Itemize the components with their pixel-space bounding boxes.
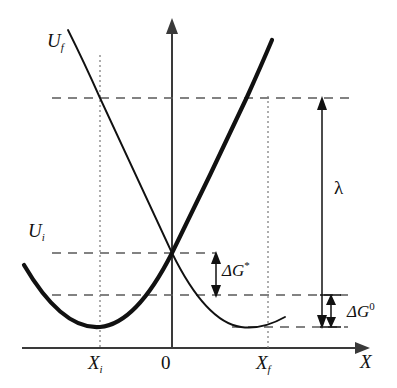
- curve-uf: [68, 30, 285, 328]
- curve-label-ui: Ui: [28, 221, 45, 240]
- tick-label-xi-base: X: [88, 352, 100, 373]
- free-energy-change-label: ΔG0: [347, 303, 375, 320]
- curve-ui: [24, 40, 272, 327]
- activation-energy-label: ΔG*: [222, 262, 250, 279]
- tick-label-xi: Xi: [88, 353, 103, 372]
- lambda-measure-arrow: [317, 96, 327, 329]
- tick-label-xi-subscript: i: [100, 363, 103, 375]
- dgstar-arrowhead-bottom: [211, 285, 221, 298]
- curve-label-uf-subscript: f: [61, 41, 64, 53]
- activation-energy-label-base: ΔG: [222, 261, 244, 280]
- y-axis: [166, 18, 178, 348]
- origin-label: 0: [161, 353, 171, 372]
- curve-label-uf: Uf: [47, 31, 64, 50]
- y-axis-arrowhead: [166, 18, 178, 34]
- x-axis: [22, 342, 370, 354]
- curve-label-uf-base: U: [47, 30, 61, 51]
- activation-energy-measure-arrow: [211, 251, 221, 298]
- curve-label-ui-subscript: i: [42, 231, 45, 243]
- free-energy-change-label-superscript: 0: [369, 300, 375, 312]
- activation-energy-label-superscript: *: [244, 259, 250, 271]
- free-energy-change-label-base: ΔG: [347, 302, 369, 321]
- marcus-energy-diagram: Uf Ui Xi 0 Xf X λ ΔG* ΔG0: [0, 0, 397, 388]
- lambda-label: λ: [334, 178, 343, 197]
- curve-label-ui-base: U: [28, 220, 42, 241]
- tick-label-xf-base: X: [256, 352, 268, 373]
- x-axis-label: X: [360, 352, 372, 371]
- tick-label-xf-subscript: f: [268, 363, 271, 375]
- tick-label-xf: Xf: [256, 353, 271, 372]
